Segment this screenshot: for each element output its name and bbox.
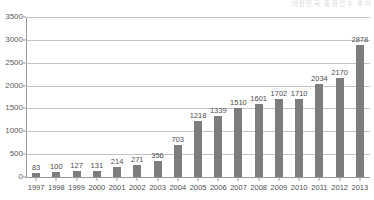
bar-value-label: 2170 xyxy=(331,69,348,77)
x-tick-mark xyxy=(76,178,77,181)
bar-slot[interactable]: 703 xyxy=(168,17,188,177)
x-tick-label: 2007 xyxy=(230,183,247,192)
bar-slot[interactable]: 100 xyxy=(46,17,66,177)
x-tick-mark xyxy=(177,178,178,181)
y-tick-label: 0 xyxy=(19,173,23,181)
bar-slot[interactable]: 127 xyxy=(66,17,86,177)
bar[interactable] xyxy=(356,45,364,177)
bar-value-label: 131 xyxy=(91,162,104,170)
x-tick-label: 2013 xyxy=(352,183,369,192)
x-tick-mark xyxy=(299,178,300,181)
bar-value-label: 1601 xyxy=(250,95,267,103)
bar-slot[interactable]: 1710 xyxy=(289,17,309,177)
x-tick-label: 2005 xyxy=(190,183,207,192)
bar-value-label: 703 xyxy=(171,136,184,144)
bar[interactable] xyxy=(113,167,121,177)
bar[interactable] xyxy=(336,78,344,177)
bar-value-label: 1218 xyxy=(190,112,207,120)
bar-slot[interactable]: 1510 xyxy=(228,17,248,177)
x-tick-label: 2000 xyxy=(88,183,105,192)
corner-caption: 대한민국 출원건수 추이 xyxy=(292,0,372,7)
bar[interactable] xyxy=(295,99,303,177)
x-tick-mark xyxy=(278,178,279,181)
x-tick-label: 2010 xyxy=(291,183,308,192)
x-tick-label: 2001 xyxy=(109,183,126,192)
bar-slot[interactable]: 83 xyxy=(26,17,46,177)
bar[interactable] xyxy=(275,99,283,177)
x-tick-label: 2009 xyxy=(271,183,288,192)
x-tick-label: 2002 xyxy=(129,183,146,192)
plot-area: 0500100015002000250030003500 83100127131… xyxy=(26,17,370,177)
x-tick-mark xyxy=(117,178,118,181)
bar-value-label: 2878 xyxy=(352,36,369,44)
bar[interactable] xyxy=(93,171,101,177)
bar-series: 8310012713121427135670312181339151016011… xyxy=(26,17,370,177)
bar-value-label: 1702 xyxy=(271,90,288,98)
x-tick-mark xyxy=(96,178,97,181)
bar-value-label: 1510 xyxy=(230,99,247,107)
bar-value-label: 83 xyxy=(32,164,40,172)
bar-slot[interactable]: 214 xyxy=(107,17,127,177)
bar[interactable] xyxy=(174,145,182,177)
x-tick-label: 1997 xyxy=(28,183,45,192)
bar-value-label: 356 xyxy=(151,152,164,160)
x-tick-mark xyxy=(198,178,199,181)
bar-value-label: 1339 xyxy=(210,107,227,115)
y-tick-label: 1000 xyxy=(5,127,23,135)
x-tick-label: 1999 xyxy=(68,183,85,192)
x-tick-label: 2008 xyxy=(250,183,267,192)
y-tick-label: 1500 xyxy=(5,104,23,112)
x-tick-mark xyxy=(56,178,57,181)
bar[interactable] xyxy=(255,104,263,177)
bar[interactable] xyxy=(52,172,60,177)
bar-slot[interactable]: 1218 xyxy=(188,17,208,177)
x-axis: 1997199819992000200120022003200420052006… xyxy=(26,178,370,200)
bar[interactable] xyxy=(32,173,40,177)
bar[interactable] xyxy=(315,84,323,177)
x-tick-mark xyxy=(137,178,138,181)
bar-value-label: 1710 xyxy=(291,90,308,98)
bar-value-label: 127 xyxy=(70,162,83,170)
x-tick-mark xyxy=(258,178,259,181)
bar-slot[interactable]: 2170 xyxy=(330,17,350,177)
bar[interactable] xyxy=(234,108,242,177)
y-tick-label: 3000 xyxy=(5,36,23,44)
bar-value-label: 214 xyxy=(111,158,124,166)
bar-value-label: 2034 xyxy=(311,75,328,83)
x-tick-mark xyxy=(36,178,37,181)
x-tick-mark xyxy=(319,178,320,181)
bar-value-label: 100 xyxy=(50,163,63,171)
x-tick-label: 2011 xyxy=(311,183,327,192)
bar-slot[interactable]: 271 xyxy=(127,17,147,177)
bar-slot[interactable]: 1702 xyxy=(269,17,289,177)
bar-value-label: 271 xyxy=(131,156,144,164)
x-tick-label: 2006 xyxy=(210,183,227,192)
bar-slot[interactable]: 2878 xyxy=(350,17,370,177)
bar-slot[interactable]: 1601 xyxy=(249,17,269,177)
bar-slot[interactable]: 356 xyxy=(147,17,167,177)
x-tick-label: 2012 xyxy=(331,183,348,192)
bar[interactable] xyxy=(154,161,162,177)
x-tick-mark xyxy=(238,178,239,181)
bar[interactable] xyxy=(214,116,222,177)
y-tick-label: 3500 xyxy=(5,13,23,21)
bar-slot[interactable]: 131 xyxy=(87,17,107,177)
bar-slot[interactable]: 1339 xyxy=(208,17,228,177)
y-tick-label: 2500 xyxy=(5,59,23,67)
x-tick-mark xyxy=(218,178,219,181)
x-tick-mark xyxy=(359,178,360,181)
bar-chart: 대한민국 출원건수 추이 050010001500200025003000350… xyxy=(0,0,374,200)
y-tick-label: 500 xyxy=(10,150,23,158)
x-tick-label: 1998 xyxy=(48,183,65,192)
bar[interactable] xyxy=(194,121,202,177)
x-tick-mark xyxy=(339,178,340,181)
x-tick-mark xyxy=(157,178,158,181)
bar[interactable] xyxy=(133,165,141,177)
x-tick-label: 2003 xyxy=(149,183,166,192)
y-tick-label: 2000 xyxy=(5,82,23,90)
bar[interactable] xyxy=(73,171,81,177)
x-tick-label: 2004 xyxy=(169,183,186,192)
bar-slot[interactable]: 2034 xyxy=(309,17,329,177)
